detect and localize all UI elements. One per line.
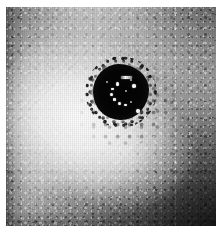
halftone-screen-ruling-horizontal — [6, 7, 216, 226]
halftone-image-plate — [6, 7, 216, 226]
image-canvas — [0, 0, 224, 234]
